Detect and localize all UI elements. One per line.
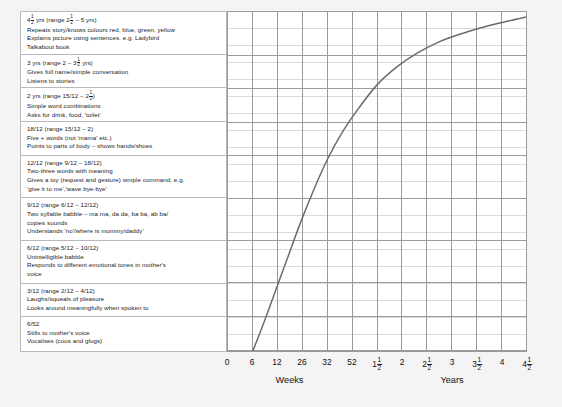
milestone-detail-line: Repeats story/knows colours red, blue, g… — [27, 26, 221, 35]
milestone-block-18-12: 18/12 (range 15/12 – 2)Five + words (not… — [21, 122, 226, 156]
milestone-detail-line: Looks around meaningfully when spoken to — [27, 304, 221, 313]
milestone-text-panel: 412 yrs (range 212 – 5 yrs)Repeats story… — [20, 11, 227, 352]
milestone-detail-line: Explains picture using sentences. e.g. L… — [27, 34, 221, 43]
milestone-age-heading: 9/12 (range 6/12 – 12/12) — [27, 201, 221, 210]
milestone-detail-line: Stills to mother's voice — [27, 329, 221, 338]
plot-area — [227, 11, 527, 352]
milestone-detail-line: Points to parts of body – shows hands/sh… — [27, 142, 221, 151]
milestone-detail-line: Listens to stories — [27, 77, 221, 86]
fraction: 12 — [377, 357, 382, 371]
development-curve — [228, 12, 526, 351]
milestone-detail-line: Five + words (not 'mama' etc.) — [27, 134, 221, 143]
x-tick-label-10: 312 — [472, 357, 482, 371]
x-tick-label-2: 12 — [272, 357, 281, 367]
milestone-block-6-12: 6/12 (range 5/12 – 10/12)Unintelligible … — [21, 241, 226, 284]
milestone-age-heading: 18/12 (range 15/12 – 2) — [27, 125, 221, 134]
milestone-block-3yrs: 3 yrs (range 2 – 312 yrs)Gives full name… — [21, 55, 226, 89]
milestone-age-heading: 6/52 — [27, 320, 221, 329]
x-tick-label-3: 26 — [297, 357, 306, 367]
milestone-detail-line: Unintelligible babble — [27, 253, 221, 262]
fraction: 12 — [527, 357, 532, 371]
fraction: 12 — [70, 15, 74, 26]
x-tick-label-8: 212 — [422, 357, 432, 371]
fraction: 12 — [31, 15, 35, 26]
milestone-block-4.5yrs: 412 yrs (range 212 – 5 yrs)Repeats story… — [21, 12, 226, 55]
milestone-detail-line: Responds to different emotional tones in… — [27, 261, 221, 270]
milestone-detail-line: Gives full name/simple conversation — [27, 68, 221, 77]
milestone-age-heading: 12/12 (range 9/12 – 18/12) — [27, 159, 221, 168]
milestone-detail-line: Laughs/squeals of pleasure — [27, 295, 221, 304]
milestone-detail-line: Asks for drink, food, 'toilet' — [27, 111, 221, 120]
fraction: 12 — [427, 357, 432, 371]
chart-page: 412 yrs (range 212 – 5 yrs)Repeats story… — [0, 0, 562, 407]
milestone-detail-line: copies sounds — [27, 219, 221, 228]
milestone-age-heading: 6/12 (range 5/12 – 10/12) — [27, 244, 221, 253]
milestone-detail-line: Vocalises (coos and glugs) — [27, 337, 221, 346]
x-axis-group-weeks: Weeks — [276, 375, 304, 386]
x-tick-label-5: 52 — [347, 357, 356, 367]
x-tick-label-12: 412 — [522, 357, 532, 371]
x-tick-label-0: 0 — [225, 357, 230, 367]
milestone-block-12-12: 12/12 (range 9/12 – 18/12)Two-three word… — [21, 156, 226, 199]
x-axis-group-years: Years — [440, 375, 463, 386]
milestone-detail-line: voice — [27, 270, 221, 279]
milestone-block-3-12: 3/12 (range 2/12 – 4/12)Laughs/squeals o… — [21, 284, 226, 318]
milestone-detail-line: Understands 'no'/where is mummy/daddy' — [27, 227, 221, 236]
fraction: 12 — [89, 91, 93, 102]
fraction: 12 — [77, 58, 81, 69]
milestone-detail-line: Two syllable babble – ma ma, da da, ba b… — [27, 210, 221, 219]
x-tick-label-9: 3 — [450, 357, 455, 367]
curve-path — [253, 17, 526, 351]
x-tick-label-11: 4 — [500, 357, 505, 367]
x-tick-label-4: 32 — [322, 357, 331, 367]
milestone-age-heading: 3/12 (range 2/12 – 4/12) — [27, 287, 221, 296]
milestone-detail-line: Gives a toy (request and gesture) simple… — [27, 176, 221, 185]
x-tick-label-7: 2 — [400, 357, 405, 367]
milestone-age-heading: 3 yrs (range 2 – 312 yrs) — [27, 58, 221, 69]
milestone-detail-line: 'give it to me','wave bye-bye' — [27, 185, 221, 194]
milestone-detail-line: Talkabout book — [27, 43, 221, 52]
milestone-block-9-12: 9/12 (range 6/12 – 12/12)Two syllable ba… — [21, 198, 226, 241]
milestone-block-6-52: 6/52Stills to mother's voiceVocalises (c… — [21, 317, 226, 351]
x-tick-label-6: 112 — [372, 357, 382, 371]
milestone-detail-line: Two-three words with meaning — [27, 167, 221, 176]
milestone-age-heading: 2 yrs (range 15/12 – 212) — [27, 91, 221, 102]
fraction: 12 — [477, 357, 482, 371]
x-tick-label-1: 6 — [250, 357, 255, 367]
milestone-age-heading: 412 yrs (range 212 – 5 yrs) — [27, 15, 221, 26]
milestone-block-2yrs: 2 yrs (range 15/12 – 212)Simple word com… — [21, 88, 226, 122]
milestone-detail-line: Simple word combinations — [27, 102, 221, 111]
